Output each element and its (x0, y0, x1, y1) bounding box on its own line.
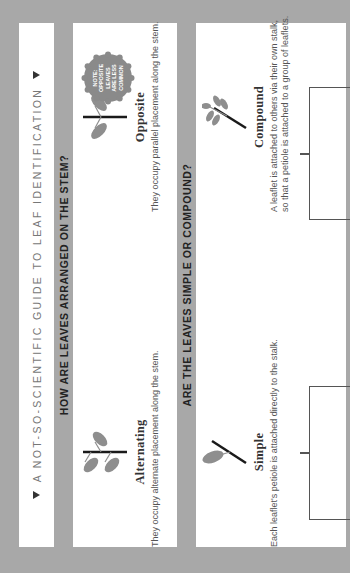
section-heading-arrangement: How are leaves arranged on the stem? (55, 23, 73, 547)
title-banner: A Not-So-Scientific Guide to Leaf Identi… (19, 23, 54, 547)
card-title: Opposite (133, 22, 148, 212)
card-simple: Simple Each leaflet's petiole is attache… (202, 357, 280, 547)
note-text: Note: Opposite leaves are less common (81, 51, 135, 105)
note-line: Opposite (98, 64, 105, 92)
card-description: They occupy parallel placement along the… (150, 22, 161, 212)
section-heading-simple-compound: Are the leaves simple or compound? (177, 23, 196, 547)
card-title: Alternating (133, 357, 148, 547)
leaf-type-panel: Simple Each leaflet's petiole is attache… (196, 23, 346, 547)
card-description: They occupy alternate placement along th… (150, 357, 161, 547)
compound-bracket-tick (300, 154, 309, 156)
card-alternating: Alternating They occupy alternate placem… (79, 357, 161, 547)
card-compound: Compound A leaflet is attached to others… (202, 22, 291, 212)
card-title: Simple (252, 357, 267, 547)
card-description: A leaflet is attached to others via thei… (269, 22, 280, 212)
triangle-down-icon (33, 71, 40, 79)
compound-leaf-icon (202, 92, 248, 142)
card-description: Each leaflet's petiole is attached direc… (269, 357, 280, 547)
note-line: common (118, 64, 125, 92)
alternating-leaves-icon (79, 427, 129, 477)
simple-leaf-icon (202, 427, 248, 477)
card-description: so that a petiole is attached to a group… (280, 22, 291, 212)
page-title: A Not-So-Scientific Guide to Leaf Identi… (31, 88, 43, 483)
note-badge: Note: Opposite leaves are less common (81, 51, 135, 105)
note-line: are less (111, 64, 118, 92)
arrangement-panel: Alternating They occupy alternate placem… (73, 23, 177, 547)
simple-bracket (309, 386, 350, 520)
compound-bracket (309, 87, 350, 220)
triangle-down-icon (33, 491, 40, 499)
simple-bracket-tick (300, 453, 309, 455)
card-title: Compound (252, 22, 267, 212)
